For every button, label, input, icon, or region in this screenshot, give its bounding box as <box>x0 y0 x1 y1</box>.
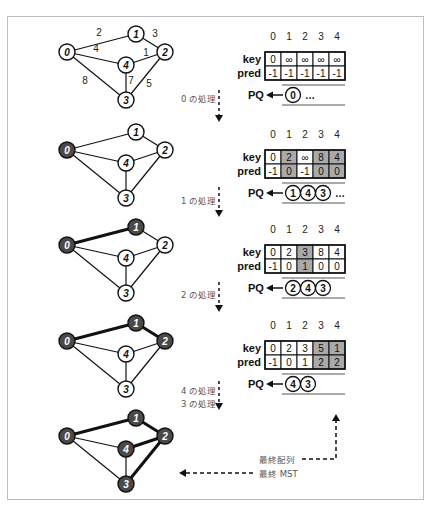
table-stage-2: 01234keypred02384-10100PQ243 <box>237 224 345 298</box>
arrow-left-icon <box>266 381 273 388</box>
table-stage-1: 01234keypred02∞84-10-100PQ143… <box>237 129 345 203</box>
key-value: ∞ <box>333 54 340 65</box>
pred-value: -1 <box>285 68 294 79</box>
pred-value: -1 <box>269 357 278 368</box>
column-index: 3 <box>318 31 324 42</box>
edge-weight: 1 <box>143 47 149 58</box>
column-index: 3 <box>318 129 324 140</box>
arrow-left-icon <box>179 469 186 477</box>
arrow-left-icon <box>266 92 273 99</box>
column-index: 4 <box>334 31 340 42</box>
key-value: 4 <box>334 247 340 258</box>
edge-weight: 4 <box>93 43 99 54</box>
table-stages: 01234keypred0∞∞∞∞-1-1-1-1-1PQ0…01234keyp… <box>237 31 345 394</box>
pred-value: 0 <box>286 166 292 177</box>
pq-item-label: 3 <box>320 283 326 294</box>
key-value: ∞ <box>301 152 308 163</box>
edge-0-3 <box>67 150 126 198</box>
edge-0-1 <box>67 132 136 150</box>
key-value: ∞ <box>285 54 292 65</box>
pred-value: 2 <box>334 357 340 368</box>
graph-stage-0: 234187501234 <box>59 26 173 108</box>
pred-value: 0 <box>286 261 292 272</box>
node-label: 3 <box>123 479 129 490</box>
node-label: 0 <box>64 240 70 251</box>
node-label: 3 <box>123 193 129 204</box>
graph-stage-3: 01234 <box>59 315 173 397</box>
table-stage-3: 01234keypred02351-10122PQ43 <box>237 320 345 394</box>
column-index: 0 <box>270 129 276 140</box>
final-array-label: 最終配列 <box>259 455 295 465</box>
key-value: 1 <box>334 343 340 354</box>
node-label: 0 <box>64 431 70 442</box>
pred-value: 0 <box>318 166 324 177</box>
pq-label: PQ <box>248 89 264 101</box>
step-label-3a: 4 の処理 <box>181 386 216 396</box>
column-index: 2 <box>302 224 308 235</box>
final-mst-label: 最終 MST <box>259 469 298 479</box>
pred-row-label: pred <box>237 356 261 368</box>
node-label: 4 <box>122 60 129 71</box>
pred-value: -1 <box>269 68 278 79</box>
node-label: 2 <box>161 336 168 347</box>
node-label: 2 <box>161 47 168 58</box>
key-value: 8 <box>318 247 324 258</box>
pred-value: -1 <box>317 68 326 79</box>
key-value: 4 <box>334 152 340 163</box>
pq-item-label: 4 <box>305 188 311 199</box>
step-arrow-2: 2 の処理 <box>181 282 223 312</box>
edge-weight: 3 <box>152 28 158 39</box>
arrow-left-icon <box>266 285 273 292</box>
final-annotation: 最終配列 最終 MST <box>179 414 340 479</box>
node-label: 2 <box>161 240 168 251</box>
column-index: 3 <box>318 320 324 331</box>
graph-stages: 23418750123401234012340123401234 <box>59 26 173 492</box>
node-label: 4 <box>122 253 129 264</box>
node-label: 0 <box>64 145 70 156</box>
edge-weight: 7 <box>128 75 134 86</box>
prim-mst-diagram: 23418750123401234012340123401234 01234ke… <box>0 0 436 510</box>
pred-value: 1 <box>302 357 308 368</box>
node-label: 0 <box>64 47 70 58</box>
key-value: 0 <box>270 343 276 354</box>
pred-row-label: pred <box>237 165 261 177</box>
node-label: 1 <box>133 413 139 424</box>
edge-0-3 <box>67 245 126 293</box>
key-value: ∞ <box>301 54 308 65</box>
column-index: 2 <box>302 31 308 42</box>
pred-row-label: pred <box>237 260 261 272</box>
node-label: 3 <box>123 384 129 395</box>
pred-value: 1 <box>302 261 308 272</box>
key-value: 8 <box>318 152 324 163</box>
column-index: 4 <box>334 224 340 235</box>
pred-value: -1 <box>269 261 278 272</box>
graph-stage-2: 01234 <box>59 219 173 301</box>
node-label: 1 <box>133 318 139 329</box>
key-value: 5 <box>318 343 324 354</box>
column-index: 0 <box>270 224 276 235</box>
arrow-left-icon <box>266 190 273 197</box>
node-label: 1 <box>133 222 139 233</box>
node-label: 1 <box>133 29 139 40</box>
key-value: 0 <box>270 247 276 258</box>
key-value: ∞ <box>317 54 324 65</box>
step-arrow-1: 1 の処理 <box>181 187 223 217</box>
key-row-label: key <box>243 151 262 163</box>
edge-0-1 <box>67 323 136 341</box>
edge-0-3 <box>67 341 126 389</box>
pq-item-label: 3 <box>305 379 311 390</box>
step-label-0: 0 の処理 <box>181 94 216 104</box>
column-index: 2 <box>302 129 308 140</box>
pq-ellipsis: … <box>335 188 345 199</box>
key-value: 3 <box>302 247 308 258</box>
pq-item-label: 3 <box>320 188 326 199</box>
column-index: 1 <box>286 320 292 331</box>
edge-0-1 <box>67 418 136 436</box>
pq-item-label: 2 <box>290 283 296 294</box>
key-row-label: key <box>243 53 262 65</box>
key-value: 0 <box>270 152 276 163</box>
step-label-1: 1 の処理 <box>181 196 216 206</box>
graph-stage-4: 01234 <box>59 410 173 492</box>
pred-value: -1 <box>301 68 310 79</box>
edge-0-3 <box>67 436 126 484</box>
